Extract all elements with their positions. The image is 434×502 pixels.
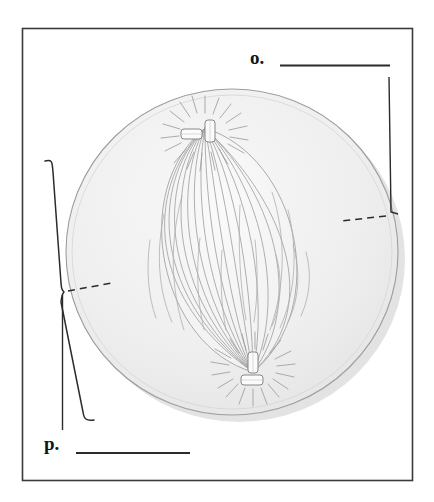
label-o-marker: o. [250, 48, 264, 67]
label-p-marker: p. [44, 434, 59, 453]
label-o-leader-vertical [389, 77, 398, 214]
figure-page: o. p. [0, 0, 434, 502]
mitosis-figure [0, 0, 434, 502]
